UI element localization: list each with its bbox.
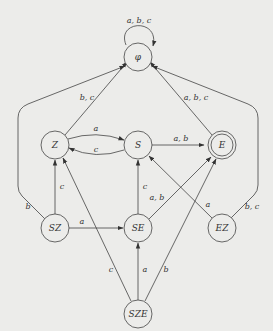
node-label-SE: SE <box>132 223 145 233</box>
edge-EZ-phi <box>152 66 258 218</box>
node-label-Z: Z <box>51 140 59 150</box>
node-label-SZ: SZ <box>49 223 62 233</box>
label-SZ-phi: b <box>25 202 30 211</box>
label-Z-phi: b, c <box>80 93 95 102</box>
diagram-canvas: φ Z S E SZ SE EZ SZE a, b, c b, c a, b, … <box>0 0 273 331</box>
label-Z-S: a <box>94 124 99 133</box>
label-E-phi: a, b, c <box>184 93 209 102</box>
label-SZE-Z: c <box>109 265 114 274</box>
edge-SZE-E <box>145 159 216 301</box>
node-label-EZ: EZ <box>215 223 230 233</box>
edge-Z-S <box>68 135 124 140</box>
edge-SZE-Z <box>63 158 131 301</box>
node-label-E: E <box>218 140 226 150</box>
node-label-S: S <box>135 140 141 150</box>
label-EZ-phi: b, c <box>245 202 260 211</box>
label-SE-E: a, b <box>150 193 165 202</box>
node-label-SZE: SZE <box>129 309 148 319</box>
label-S-E: a, b <box>174 134 189 143</box>
label-SZ-SE: a <box>80 217 85 226</box>
label-EZ-S: a <box>206 200 211 209</box>
label-SZE-SE: a <box>143 265 148 274</box>
label-S-Z: c <box>94 145 99 154</box>
label-SZ-Z: c <box>60 182 65 191</box>
edge-SZ-phi <box>18 66 125 219</box>
label-SE-S: c <box>143 182 148 191</box>
node-label-phi: φ <box>135 52 142 62</box>
automaton-diagram: φ Z S E SZ SE EZ SZE a, b, c b, c a, b, … <box>0 0 273 331</box>
label-SZE-E: b <box>163 265 168 274</box>
label-phi-loop: a, b, c <box>127 16 152 25</box>
